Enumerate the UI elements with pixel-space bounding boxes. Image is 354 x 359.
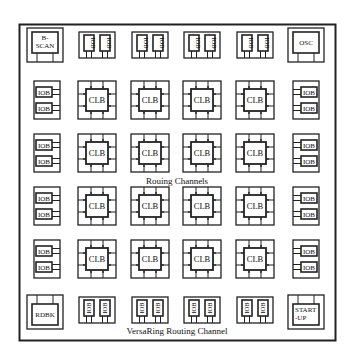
pin-icon: [267, 252, 269, 254]
pin-icon: [260, 271, 262, 273]
iob-label: IOB: [248, 37, 255, 49]
clb-block: CLB: [78, 240, 116, 278]
pin-icon: [214, 158, 216, 160]
pin-icon: [241, 158, 243, 160]
pin-icon: [109, 252, 111, 254]
pin-icon: [195, 112, 197, 114]
iob-label: IOB: [303, 105, 315, 113]
clb-label: CLB: [89, 95, 106, 105]
pin-icon: [90, 112, 92, 114]
pin-icon: [188, 252, 190, 254]
pin-icon: [188, 264, 190, 266]
iob-label: IOB: [206, 302, 213, 314]
pin-icon: [109, 264, 111, 266]
routing-channels-label: Rouing Channels: [146, 176, 209, 186]
pin-icon: [207, 165, 209, 167]
pin-icon: [90, 192, 92, 194]
iob-label: IOB: [101, 302, 108, 314]
clb-block: CLB: [78, 187, 116, 225]
pin-icon: [267, 211, 269, 213]
pin-icon: [90, 271, 92, 273]
pin-icon: [248, 165, 250, 167]
clb-block: CLB: [236, 134, 274, 172]
clb-label: CLB: [142, 254, 159, 264]
pin-icon: [195, 245, 197, 247]
iob-label: IOB: [90, 37, 97, 49]
pin-icon: [109, 211, 111, 213]
pin-icon: [260, 139, 262, 141]
right-iob-pair: IOBIOB: [293, 81, 319, 119]
pin-icon: [214, 146, 216, 148]
left-iob-pair: IOBIOB: [34, 134, 60, 172]
bottom-iob-pair: IOBIOB: [79, 297, 115, 323]
pin-icon: [155, 192, 157, 194]
iob-label: IOB: [38, 195, 50, 203]
iob-label: IOB: [138, 302, 145, 314]
iob-label: IOB: [303, 248, 315, 256]
pin-icon: [83, 105, 85, 107]
pin-icon: [143, 218, 145, 220]
clb-label: CLB: [142, 201, 159, 211]
pin-icon: [136, 158, 138, 160]
clb-label: CLB: [142, 148, 159, 158]
pin-icon: [136, 105, 138, 107]
top-iob-pair: IOBIOB: [237, 32, 273, 58]
pin-icon: [260, 86, 262, 88]
pin-icon: [83, 211, 85, 213]
pin-icon: [267, 264, 269, 266]
pin-icon: [188, 211, 190, 213]
clb-block: CLB: [236, 81, 274, 119]
pin-icon: [162, 199, 164, 201]
pin-icon: [241, 252, 243, 254]
corner-label: OSC: [299, 39, 313, 47]
pin-icon: [83, 146, 85, 148]
clb-label: CLB: [247, 148, 264, 158]
pin-icon: [136, 211, 138, 213]
pin-icon: [214, 93, 216, 95]
pin-icon: [109, 146, 111, 148]
startup-block: START-UP: [288, 295, 324, 329]
pin-icon: [162, 93, 164, 95]
clb-label: CLB: [194, 254, 211, 264]
pin-icon: [143, 112, 145, 114]
pin-icon: [260, 165, 262, 167]
pin-icon: [188, 158, 190, 160]
pin-icon: [90, 139, 92, 141]
corner-label: B-: [42, 34, 50, 42]
pin-icon: [207, 139, 209, 141]
iob-label: IOB: [38, 142, 50, 150]
pin-icon: [260, 245, 262, 247]
bottom-iob-pair: IOBIOB: [132, 297, 168, 323]
clb-label: CLB: [194, 95, 211, 105]
pin-icon: [188, 199, 190, 201]
clb-block: CLB: [236, 187, 274, 225]
pin-icon: [241, 264, 243, 266]
clb-block: CLB: [131, 81, 169, 119]
pin-icon: [188, 105, 190, 107]
pin-icon: [90, 218, 92, 220]
pin-icon: [195, 139, 197, 141]
pin-icon: [102, 271, 104, 273]
pin-icon: [267, 146, 269, 148]
pin-icon: [155, 245, 157, 247]
iob-label: IOB: [38, 264, 50, 272]
pin-icon: [248, 112, 250, 114]
clb-label: CLB: [247, 254, 264, 264]
pin-icon: [214, 199, 216, 201]
pin-icon: [155, 165, 157, 167]
bottom-iob-pair: IOBIOB: [237, 297, 273, 323]
pin-icon: [83, 264, 85, 266]
clb-block: CLB: [183, 240, 221, 278]
clb-label: CLB: [247, 95, 264, 105]
pin-icon: [207, 112, 209, 114]
iob-label: IOB: [38, 105, 50, 113]
pin-icon: [102, 218, 104, 220]
osc-block: OSC: [288, 28, 324, 62]
iob-label: IOB: [195, 37, 202, 49]
clb-label: CLB: [89, 201, 106, 211]
right-iob-pair: IOBIOB: [293, 240, 319, 278]
pin-icon: [83, 93, 85, 95]
iob-label: IOB: [38, 248, 50, 256]
pin-icon: [143, 165, 145, 167]
pin-icon: [195, 165, 197, 167]
